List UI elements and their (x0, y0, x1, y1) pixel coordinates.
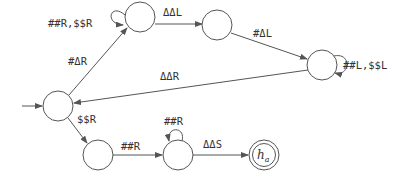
state-q4 (83, 140, 113, 170)
edge-label-q5-ha: ΔΔS (203, 138, 222, 150)
state-q2 (202, 10, 232, 40)
edge-label-q0-q4: $$R (77, 113, 97, 125)
edge-label-q1-loop: ##R,$$R (48, 17, 93, 29)
state-q5 (163, 140, 193, 170)
edge-q1-loop (111, 11, 125, 25)
edge-label-q1-q2: ΔΔL (163, 6, 182, 18)
edge-label-q5-loop: ##R (164, 115, 184, 127)
edge-label-q3-loop: ##L,$$L (343, 59, 387, 71)
state-q3 (307, 50, 337, 80)
edge-label-q3-q0: ΔΔR (160, 70, 180, 82)
state-q0 (43, 91, 73, 121)
edge-q3-q0 (74, 70, 308, 103)
state-q1 (125, 2, 155, 32)
edge-label-q0-q1: #ΔR (68, 55, 88, 67)
state-diagram: #ΔR ##R,$$R ΔΔL #ΔL ##L,$$L ΔΔR $$R ##R … (0, 0, 393, 179)
edge-label-q4-q5: ##R (121, 140, 141, 152)
state-ha-accepting: ha (249, 140, 279, 170)
edge-label-q2-q3: #ΔL (253, 27, 272, 39)
edge-q5-loop (169, 130, 183, 141)
